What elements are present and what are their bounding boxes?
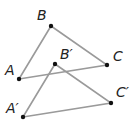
vertex-label: C (113, 48, 123, 64)
vertex-label: B′ (60, 46, 74, 62)
vertex-label: C′ (116, 84, 130, 100)
vertex-label: B (37, 7, 47, 23)
vertex-point (17, 77, 21, 81)
vertex-label: A (4, 62, 15, 78)
vertex-label: A′ (5, 100, 20, 116)
triangle-a-prime-b-prime-c-prime: A′B′C′ (5, 46, 130, 119)
vertex-point (49, 24, 53, 28)
vertex-point (109, 101, 113, 105)
triangle-translation-diagram: ABC A′B′C′ (0, 0, 136, 126)
vertex-point (53, 62, 57, 66)
vertex-point (105, 63, 109, 67)
triangle-edges (23, 64, 111, 117)
vertex-point (21, 115, 25, 119)
